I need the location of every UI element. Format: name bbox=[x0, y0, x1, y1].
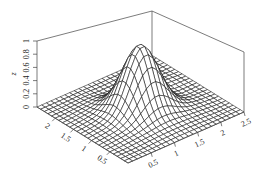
x-tick-label: 1 bbox=[173, 148, 180, 158]
x-tick-label: 1.5 bbox=[193, 137, 206, 149]
y-tick-label: 1 bbox=[80, 144, 88, 154]
z-tick-label: 1 bbox=[22, 39, 31, 43]
x-tick-label: 0.5 bbox=[147, 157, 160, 169]
surface-plot: 00.20.40.60.81z 0.511.52 0.511.522.5 bbox=[0, 0, 262, 184]
z-tick-label: 0.4 bbox=[22, 76, 31, 86]
y-tick-label: 2 bbox=[43, 121, 51, 131]
z-axis: 00.20.40.60.81z bbox=[9, 39, 37, 109]
z-tick-label: 0 bbox=[22, 105, 31, 109]
surface-mesh bbox=[37, 44, 244, 163]
x-tick-label: 2 bbox=[219, 128, 226, 138]
z-axis-title: z bbox=[9, 72, 18, 77]
y-tick-label: 1.5 bbox=[59, 131, 72, 144]
z-tick-label: 0.6 bbox=[22, 62, 31, 72]
x-tick-label: 2.5 bbox=[240, 117, 253, 129]
y-tick-label: 0.5 bbox=[96, 153, 109, 166]
z-tick-label: 0.2 bbox=[22, 89, 31, 99]
z-tick-label: 0.8 bbox=[22, 49, 31, 59]
